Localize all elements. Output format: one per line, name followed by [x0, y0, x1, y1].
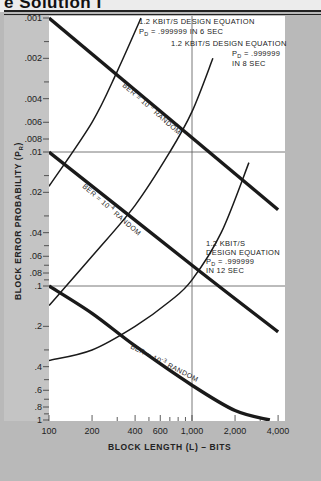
svg-text:IN 12 SEC: IN 12 SEC	[206, 266, 244, 275]
y-tick-label: .4	[34, 362, 42, 372]
y-tick-label: .2	[34, 321, 42, 331]
y-tick-label: .8	[34, 402, 42, 412]
svg-text:1.2 KBIT/S DESIGN EQUATION: 1.2 KBIT/S DESIGN EQUATION	[139, 17, 255, 26]
y-tick-label: .02	[29, 187, 42, 197]
y-tick-label: .004	[24, 94, 42, 104]
y-axis-strip	[4, 16, 49, 421]
y-tick-label: .1	[34, 281, 42, 291]
y-tick-label: .08	[29, 268, 42, 278]
x-tick-label: 2,000	[224, 426, 247, 436]
y-tick-label: .008	[24, 134, 42, 144]
svg-text:PD = .999999 IN 6 SEC: PD = .999999 IN 6 SEC	[139, 27, 224, 37]
x-tick-label: 1,000	[181, 426, 204, 436]
svg-text:1.2 KBIT/S: 1.2 KBIT/S	[206, 239, 245, 248]
svg-text:DESIGN EQUATION: DESIGN EQUATION	[206, 248, 280, 257]
x-axis-title: BLOCK LENGTH (L) – BITS	[108, 442, 231, 452]
svg-text:IN 8 SEC: IN 8 SEC	[232, 59, 266, 68]
x-tick-label: 200	[85, 426, 100, 436]
x-tick-label: 100	[41, 426, 56, 436]
y-tick-label: .6	[34, 385, 42, 395]
y-tick-label: 1	[37, 415, 42, 425]
y-tick-label: .01	[29, 147, 42, 157]
x-tick-label: 600	[153, 426, 168, 436]
x-tick-label: 400	[128, 426, 143, 436]
y-tick-label: .04	[29, 228, 42, 238]
x-tick-label: 4,000	[267, 426, 290, 436]
y-tick-label: .002	[24, 53, 42, 63]
y-tick-label: .006	[24, 117, 42, 127]
svg-text:1.2 KBIT/S DESIGN EQUATION: 1.2 KBIT/S DESIGN EQUATION	[171, 39, 287, 48]
y-tick-label: .001	[24, 13, 42, 23]
y-tick-label: .06	[29, 251, 42, 261]
chart: .001.002.004.006.008.01.02.04.06.08.1.2.…	[0, 0, 321, 481]
y-axis-title: BLOCK ERROR PROBABILITY (PR)	[13, 142, 24, 300]
